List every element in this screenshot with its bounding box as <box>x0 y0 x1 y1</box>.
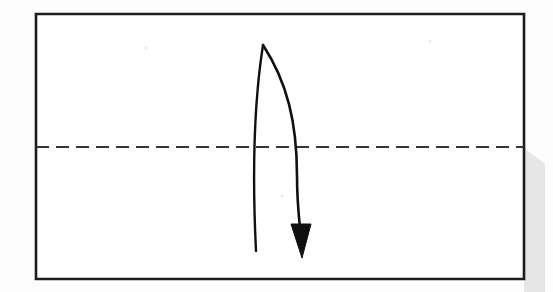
paper-speck <box>145 47 148 50</box>
origami-diagram-svg <box>0 0 553 292</box>
page-shadow <box>524 148 545 292</box>
diagram-canvas <box>0 0 553 292</box>
paper-speck <box>429 40 431 42</box>
paper-speck <box>281 195 284 198</box>
